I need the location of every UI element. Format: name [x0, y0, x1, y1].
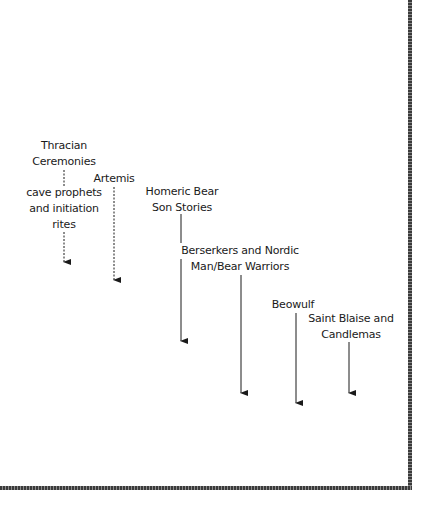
node-homeric-bear: Homeric Bear Son Stories — [142, 184, 222, 216]
node-berserkers: Berserkers and Nordic Man/Bear Warriors — [180, 243, 300, 275]
node-artemis: Artemis — [89, 171, 139, 187]
node-label-line: Thracian — [24, 138, 104, 154]
node-label-line: and initiation — [19, 201, 109, 217]
node-label-line: Homeric Bear — [142, 184, 222, 200]
node-label-line: cave prophets — [19, 185, 109, 201]
node-label-line: Man/Bear Warriors — [180, 259, 300, 275]
node-label-line: Saint Blaise and — [306, 311, 396, 327]
node-label-line: Son Stories — [142, 200, 222, 216]
node-cave-prophets: cave prophets and initiation rites — [19, 185, 109, 233]
node-label-line: Candlemas — [306, 327, 396, 343]
node-label-line: Artemis — [89, 171, 139, 187]
node-label-line: rites — [19, 217, 109, 233]
node-saint-blaise: Saint Blaise and Candlemas — [306, 311, 396, 343]
node-thracian-ceremonies: Thracian Ceremonies — [24, 138, 104, 170]
node-label-line: Ceremonies — [24, 154, 104, 170]
node-label-line: Berserkers and Nordic — [180, 243, 300, 259]
